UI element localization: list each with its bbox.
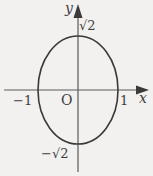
y-tick-label-sqrt2: √2 [79, 19, 96, 32]
y-axis-arrowhead [74, 4, 83, 18]
origin-label: O [61, 93, 72, 107]
x-axis-label: x [139, 91, 147, 105]
x-tick-label-negative-one: −1 [13, 94, 32, 107]
x-tick-label-one: 1 [120, 94, 128, 107]
figure-canvas [0, 0, 153, 176]
y-axis-label: y [65, 1, 73, 15]
ellipse-coordinate-figure: y x √2 −√2 −1 1 O [0, 0, 153, 176]
y-tick-label-negative-sqrt2: −√2 [41, 147, 68, 160]
